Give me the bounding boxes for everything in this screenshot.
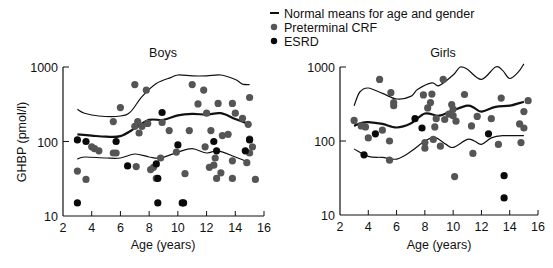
figure-canvas: Normal means for age and gender Pretermi… xyxy=(0,0,553,268)
boys-preterminal-crf-point xyxy=(194,100,201,107)
boys-preterminal-crf-point xyxy=(207,127,214,134)
girls-esrd-point xyxy=(360,151,367,158)
girls-title: Girls xyxy=(430,46,456,60)
girls-preterminal-crf-point xyxy=(379,127,386,134)
girls-plot-area xyxy=(351,64,532,202)
boys-y-tick-label: 1000 xyxy=(30,61,58,75)
boys-preterminal-crf-point xyxy=(131,81,138,88)
boys-preterminal-crf-point xyxy=(166,127,173,134)
boys-preterminal-crf-point xyxy=(229,100,236,107)
girls-preterminal-crf-point xyxy=(386,157,393,164)
legend-esrd-label: ESRD xyxy=(284,35,319,49)
boys-y-tick-label: 10 xyxy=(44,210,58,224)
girls-preterminal-crf-point xyxy=(520,108,527,115)
girls-x-tick-label: 12 xyxy=(474,220,488,234)
boys-esrd-point xyxy=(154,199,161,206)
boys-esrd-point xyxy=(154,175,161,182)
boys-preterminal-crf-point xyxy=(229,175,236,182)
boys-preterminal-crf-point xyxy=(232,110,239,117)
boys-x-axis-label: Age (years) xyxy=(131,238,196,252)
girls-preterminal-crf-point xyxy=(452,118,459,125)
boys-preterminal-crf-point xyxy=(225,131,232,138)
girls-esrd-point xyxy=(418,124,425,131)
boys-preterminal-crf-point xyxy=(229,157,236,164)
girls-x-tick-label: 16 xyxy=(531,220,545,234)
girls-preterminal-crf-point xyxy=(468,122,475,129)
boys-preterminal-crf-point xyxy=(215,100,222,107)
girls-preterminal-crf-point xyxy=(351,117,358,124)
legend-normal-label: Normal means for age and gender xyxy=(284,7,474,21)
girls-preterminal-crf-point xyxy=(525,97,532,104)
girls-preterminal-crf-point xyxy=(450,106,457,113)
boys-esrd-point xyxy=(159,109,166,116)
girls-preterminal-crf-point xyxy=(433,115,440,122)
girls-preterminal-crf-point xyxy=(495,141,502,148)
boys-x-tick-label: 6 xyxy=(117,221,124,235)
girls-preterminal-crf-point xyxy=(387,89,394,96)
girls-preterminal-crf-point xyxy=(421,145,428,152)
girls-y-tick-label: 1000 xyxy=(307,61,335,75)
boys-preterminal-crf-point xyxy=(133,163,140,170)
girls-preterminal-crf-point xyxy=(427,99,434,106)
boys-esrd-point xyxy=(246,136,253,143)
boys-esrd-point xyxy=(153,160,160,167)
girls-normal-mean-curve xyxy=(354,102,524,128)
boys-esrd-point xyxy=(180,199,187,206)
boys-esrd-point xyxy=(124,162,131,169)
boys-x-tick-label: 10 xyxy=(171,221,185,235)
boys-y-axis-label: GHBP (pmol/l) xyxy=(15,102,29,182)
girls-x-tick-label: 8 xyxy=(421,220,428,234)
girls-x-tick-label: 6 xyxy=(393,220,400,234)
boys-x-tick-label: 14 xyxy=(228,221,242,235)
boys-x-tick-label: 12 xyxy=(200,221,214,235)
girls-preterminal-crf-point xyxy=(451,173,458,180)
boys-preterminal-crf-point xyxy=(243,159,250,166)
boys-lower-normal-curve xyxy=(77,149,249,163)
boys-preterminal-crf-point xyxy=(252,176,259,183)
girls-esrd-point xyxy=(501,172,508,179)
boys-preterminal-crf-point xyxy=(249,143,256,150)
boys-esrd-point xyxy=(74,136,81,143)
girls-preterminal-crf-point xyxy=(461,91,468,98)
boys-preterminal-crf-point xyxy=(157,154,164,161)
girls-preterminal-crf-point xyxy=(362,123,369,130)
boys-esrd-point xyxy=(242,147,249,154)
girls-preterminal-crf-point xyxy=(474,113,481,120)
girls-preterminal-crf-point xyxy=(365,134,372,141)
girls-preterminal-crf-point xyxy=(431,123,438,130)
boys-preterminal-crf-point xyxy=(212,154,219,161)
boys-axes: 246810121416101001000 xyxy=(30,61,271,235)
boys-preterminal-crf-point xyxy=(200,87,207,94)
boys-preterminal-crf-point xyxy=(189,81,196,88)
legend-preterminal-dot-icon xyxy=(271,24,277,30)
boys-preterminal-crf-point xyxy=(113,149,120,156)
girls-x-axis-label: Age (years) xyxy=(407,238,472,252)
boys-esrd-point xyxy=(113,138,120,145)
girls-preterminal-crf-point xyxy=(517,139,524,146)
girls-x-tick-label: 14 xyxy=(503,220,517,234)
boys-preterminal-crf-point xyxy=(217,169,224,176)
boys-preterminal-crf-point xyxy=(245,121,252,128)
boys-esrd-point xyxy=(174,141,181,148)
boys-preterminal-crf-point xyxy=(74,168,81,175)
legend-esrd-dot-icon xyxy=(271,38,277,44)
legend: Normal means for age and gender Pretermi… xyxy=(270,7,474,49)
boys-esrd-point xyxy=(210,138,217,145)
girls-y-tick-label: 10 xyxy=(321,209,335,223)
boys-esrd-point xyxy=(82,138,89,145)
boys-esrd-point xyxy=(74,199,81,206)
boys-preterminal-crf-point xyxy=(181,170,188,177)
boys-preterminal-crf-point xyxy=(136,129,143,136)
boys-preterminal-crf-point xyxy=(82,176,89,183)
girls-preterminal-crf-point xyxy=(386,137,393,144)
boys-x-tick-label: 2 xyxy=(60,221,67,235)
girls-preterminal-crf-point xyxy=(390,102,397,109)
boys-esrd-point xyxy=(213,147,220,154)
boys-preterminal-crf-point xyxy=(203,110,210,117)
boys-preterminal-crf-point xyxy=(95,147,102,154)
boys-preterminal-crf-point xyxy=(246,94,253,101)
girls-panel: Girls Age (years) 246810121416101001000 xyxy=(307,46,545,252)
girls-preterminal-crf-point xyxy=(428,91,435,98)
girls-esrd-point xyxy=(372,130,379,137)
boys-preterminal-crf-point xyxy=(117,104,124,111)
